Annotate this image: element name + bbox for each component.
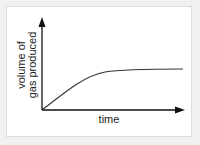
x-axis-arrow-icon [175, 107, 185, 114]
y-axis-label-line2: gas produced [26, 32, 38, 99]
gas-production-diagram: volume of gas produced time [0, 0, 200, 145]
y-axis [39, 17, 46, 110]
y-axis-arrow-icon [39, 17, 46, 27]
gas-volume-curve [42, 69, 183, 110]
x-axis-label: time [99, 113, 120, 125]
